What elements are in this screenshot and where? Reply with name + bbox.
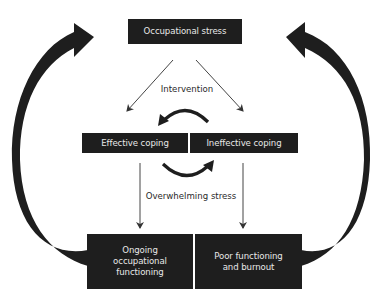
edge-label-intervention: Intervention [161, 84, 213, 94]
node-effective-coping: Effective coping [82, 133, 188, 153]
curved-arrow-intervention [164, 110, 208, 122]
node-label: Ongoing occupational functioning [101, 245, 179, 278]
node-label: Effective coping [101, 138, 168, 149]
edge-label-overwhelming-stress: Overwhelming stress [146, 191, 237, 201]
node-ineffective-coping: Ineffective coping [190, 133, 298, 153]
curved-arrow-overwhelming [163, 164, 208, 176]
node-occupational-stress: Occupational stress [128, 19, 242, 44]
node-label: Occupational stress [144, 26, 227, 37]
node-ongoing-functioning: Ongoing occupational functioning [87, 234, 193, 289]
node-poor-functioning: Poor functioning and burnout [195, 234, 302, 289]
node-label: Poor functioning and burnout [209, 251, 288, 273]
node-label: Ineffective coping [206, 138, 281, 149]
feedback-arrow-right [286, 22, 370, 266]
